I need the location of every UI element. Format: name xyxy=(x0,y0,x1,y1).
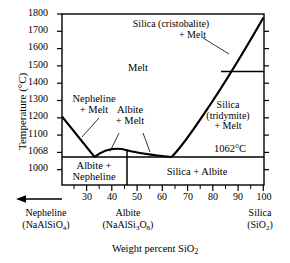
invariant-temperature-label: 1062°C xyxy=(206,143,254,154)
field-label-albite-nepheline-line2: Nepheline xyxy=(64,171,124,182)
phase-diagram-figure: Temperature (°C) 1800 1700 1600 1500 140… xyxy=(0,0,290,263)
x-tick-label-30: 30 xyxy=(77,192,97,203)
field-label-tridymite-line1: Silica xyxy=(198,100,258,111)
y-tick-label-1100: 1100 xyxy=(28,129,48,140)
y-tick-label-1400: 1400 xyxy=(28,77,48,88)
leader-cristobalite-melt xyxy=(203,38,229,54)
y-tick-label-1068: 1068 xyxy=(28,146,48,157)
formula-part: O xyxy=(139,219,146,230)
field-label-cristobalite-line2: + Melt xyxy=(132,30,210,41)
x-tick-label-80: 80 xyxy=(203,192,223,203)
formula-part: ) xyxy=(150,219,153,230)
x-tick-label-100: 100 xyxy=(253,192,275,203)
field-label-melt: Melt xyxy=(118,62,158,73)
y-tick-label-1300: 1300 xyxy=(28,94,48,105)
field-label-albite-melt-line1: Albite xyxy=(108,104,152,115)
y-tick-label-1700: 1700 xyxy=(28,25,48,36)
field-label-silica-albite: Silica + Albite xyxy=(152,166,242,177)
nepheline-liquidus-curve xyxy=(62,117,95,158)
field-label-cristobalite-line1: Silica (cristobalite) xyxy=(132,19,210,30)
x-tick-label-40: 40 xyxy=(102,192,122,203)
field-label-tridymite-line3: + Melt xyxy=(198,121,258,132)
y-tick-label-1600: 1600 xyxy=(28,42,48,53)
formula-part: ) xyxy=(66,219,69,230)
leader-albite-melt-right xyxy=(143,133,150,152)
formula-part: (SiO xyxy=(247,219,266,230)
y-tick-label-1200: 1200 xyxy=(28,111,48,122)
y-tick-label-1500: 1500 xyxy=(28,60,48,71)
y-tick-label-1000: 1000 xyxy=(28,163,48,174)
endmember-nepheline: Nepheline (NaAlSiO4) xyxy=(8,208,84,231)
field-label-silica-cristobalite-melt: Silica (cristobalite) + Melt xyxy=(132,19,210,40)
endmember-silica: Silica (SiO2) xyxy=(232,208,288,231)
x-axis-title-sub: 2 xyxy=(194,247,198,256)
formula-part: ) xyxy=(270,219,273,230)
field-label-nepheline-melt-line1: Nepheline xyxy=(65,93,123,104)
field-label-silica-tridymite-melt: Silica (tridymite) + Melt xyxy=(198,100,258,132)
formula-part: (NaAlSi xyxy=(103,219,136,230)
field-label-albite-nepheline-line1: Albite + xyxy=(64,160,124,171)
formula-part: (NaAlSiO xyxy=(22,219,63,230)
endmember-silica-name: Silica xyxy=(232,208,288,219)
albite-liquidus-curve xyxy=(95,149,172,157)
y-axis-ticks-right xyxy=(264,31,269,169)
x-tick-label-50: 50 xyxy=(127,192,147,203)
endmember-nepheline-formula: (NaAlSiO4) xyxy=(8,220,84,232)
x-tick-label-70: 70 xyxy=(178,192,198,203)
endmember-albite: Albite (NaAlSi3O8) xyxy=(86,208,170,231)
field-label-albite-melt-line2: + Melt xyxy=(108,115,152,126)
y-axis-title: Temperature (°C) xyxy=(16,73,28,150)
endmember-nepheline-name: Nepheline xyxy=(8,208,84,219)
field-label-albite-nepheline: Albite + Nepheline xyxy=(64,160,124,182)
x-tick-label-60: 60 xyxy=(152,192,172,203)
endmember-albite-name: Albite xyxy=(86,208,170,219)
x-axis-title: Weight percent SiO2 xyxy=(65,243,245,255)
y-tick-label-1800: 1800 xyxy=(28,8,48,19)
x-tick-label-90: 90 xyxy=(228,192,248,203)
leader-nepheline-melt xyxy=(82,118,99,137)
field-label-albite-melt: Albite + Melt xyxy=(108,104,152,126)
endmember-albite-formula: (NaAlSi3O8) xyxy=(86,220,170,232)
composition-direction-arrow-icon xyxy=(16,195,62,203)
x-axis-title-text: Weight percent SiO xyxy=(112,243,195,254)
y-axis-ticks xyxy=(57,14,62,170)
endmember-silica-formula: (SiO2) xyxy=(232,220,288,232)
